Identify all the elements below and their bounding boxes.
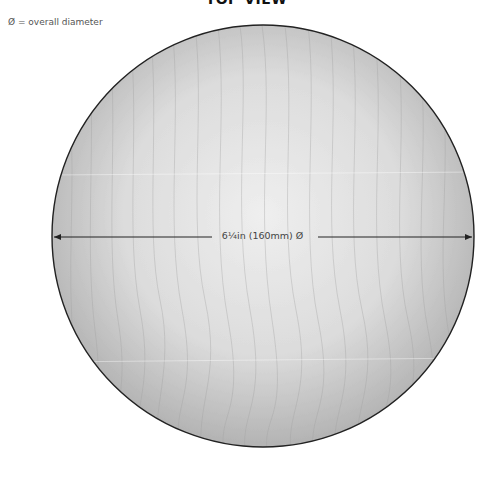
- dimension-label: 6¼in (160mm) Ø: [200, 230, 325, 241]
